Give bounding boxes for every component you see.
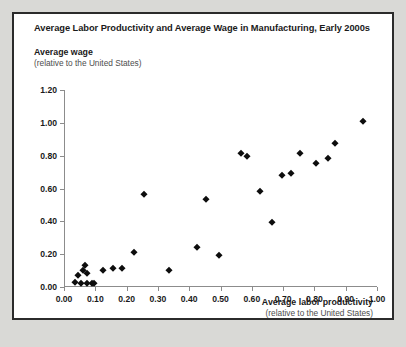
x-axis-tick-label: 0.50 xyxy=(212,294,229,304)
x-axis-tick-label: 0.10 xyxy=(87,294,104,304)
x-axis-tick xyxy=(346,287,347,291)
chart-card: Average Labor Productivity and Average W… xyxy=(12,12,394,320)
y-axis-tick-label: 1.00 xyxy=(40,118,57,128)
x-axis-tick-label: 0.30 xyxy=(150,294,167,304)
plot-area: 0.000.200.400.600.801.001.200.000.100.20… xyxy=(64,90,377,287)
y-axis-tick-label: 0.80 xyxy=(40,151,57,161)
x-axis-tick xyxy=(127,287,128,291)
y-axis-title: Average wage xyxy=(34,47,93,57)
x-axis-tick xyxy=(95,287,96,291)
x-axis-subtitle: (relative to the United States) xyxy=(266,308,373,318)
x-axis-tick-label: 0.60 xyxy=(243,294,260,304)
y-axis-tick xyxy=(60,254,64,255)
x-axis-tick xyxy=(377,287,378,291)
x-axis-tick-label: 0.20 xyxy=(118,294,135,304)
y-axis-tick xyxy=(60,221,64,222)
page-root: Average Labor Productivity and Average W… xyxy=(0,0,406,347)
x-axis-tick xyxy=(314,287,315,291)
y-axis-subtitle: (relative to the United States) xyxy=(34,58,141,68)
chart-title: Average Labor Productivity and Average W… xyxy=(34,23,384,33)
x-axis-tick xyxy=(64,287,65,291)
y-axis-tick-label: 0.60 xyxy=(40,184,57,194)
y-axis-tick xyxy=(60,123,64,124)
x-axis-tick xyxy=(252,287,253,291)
y-axis-tick-label: 0.00 xyxy=(40,282,57,292)
y-axis-tick xyxy=(60,189,64,190)
x-axis-tick xyxy=(221,287,222,291)
y-axis-tick xyxy=(60,156,64,157)
y-axis-tick-label: 0.40 xyxy=(40,216,57,226)
y-axis-line xyxy=(64,90,65,287)
y-axis-tick xyxy=(60,90,64,91)
x-axis-tick-label: 0.00 xyxy=(56,294,73,304)
x-axis-tick xyxy=(158,287,159,291)
y-axis-tick-label: 0.20 xyxy=(40,249,57,259)
x-axis-tick-label: 0.40 xyxy=(181,294,198,304)
x-axis-tick xyxy=(283,287,284,291)
plot-background xyxy=(64,90,377,287)
y-axis-tick-label: 1.20 xyxy=(40,85,57,95)
x-axis-tick xyxy=(189,287,190,291)
x-axis-title: Average labor productivity xyxy=(262,297,373,307)
